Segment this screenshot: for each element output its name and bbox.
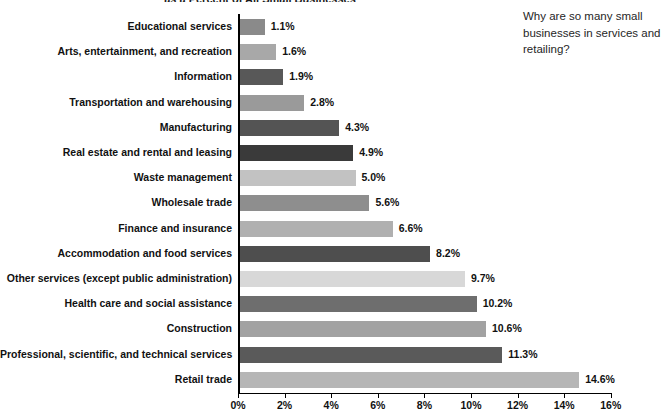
x-axis-tick-label: 4% [308, 399, 354, 411]
category-label: Health care and social assistance [0, 291, 232, 315]
category-label: Professional, scientific, and technical … [0, 342, 232, 366]
chart-bar-row: Professional, scientific, and technical … [0, 342, 620, 367]
x-axis-tick [471, 393, 472, 398]
x-axis-tick-label: 0% [215, 399, 261, 411]
chart-bar-row: Other services (except public administra… [0, 266, 620, 291]
bar [239, 145, 353, 161]
x-axis-tick-label: 10% [448, 399, 494, 411]
category-label: Wholesale trade [0, 190, 232, 214]
chart-bar-row: Information1.9% [0, 64, 620, 89]
bar-value-label: 1.9% [289, 64, 313, 88]
chart-bar-row: Health care and social assistance10.2% [0, 291, 620, 316]
category-label: Educational services [0, 14, 232, 38]
category-label: Real estate and rental and leasing [0, 140, 232, 164]
x-axis-tick-label: 2% [262, 399, 308, 411]
chart-bar-row: Construction10.6% [0, 316, 620, 341]
bar [239, 321, 486, 337]
bar [239, 120, 339, 136]
bar [239, 69, 283, 85]
category-label: Manufacturing [0, 115, 232, 139]
bar [239, 271, 465, 287]
bar-value-label: 14.6% [585, 367, 615, 391]
category-label: Transportation and warehousing [0, 90, 232, 114]
bar-value-label: 5.0% [362, 165, 386, 189]
bar [239, 95, 304, 111]
chart-bar-row: Waste management5.0% [0, 165, 620, 190]
category-label: Waste management [0, 165, 232, 189]
x-axis-tick [285, 393, 286, 398]
x-axis-tick [331, 393, 332, 398]
bar-value-label: 8.2% [436, 241, 460, 265]
chart-bar-row: Arts, entertainment, and recreation1.6% [0, 39, 620, 64]
x-axis-tick [564, 393, 565, 398]
category-label: Arts, entertainment, and recreation [0, 39, 232, 63]
x-axis-tick [424, 393, 425, 398]
category-label: Other services (except public administra… [0, 266, 232, 290]
chart-bar-row: Accommodation and food services8.2% [0, 241, 620, 266]
chart-bar-row: Retail trade14.6% [0, 367, 620, 392]
x-axis-tick [518, 393, 519, 398]
bar [239, 221, 393, 237]
bar [239, 246, 430, 262]
category-label: Retail trade [0, 367, 232, 391]
bar [239, 296, 477, 312]
bar [239, 347, 502, 363]
chart-title: as a Percent of All Small Businesses [0, 0, 520, 2]
chart-bar-row: Finance and insurance6.6% [0, 216, 620, 241]
bar-value-label: 9.7% [471, 266, 495, 290]
category-label: Finance and insurance [0, 216, 232, 240]
bar [239, 195, 369, 211]
x-axis-tick-label: 12% [495, 399, 541, 411]
bar-value-label: 6.6% [399, 216, 423, 240]
x-axis-tick [238, 393, 239, 398]
bar-value-label: 4.9% [359, 140, 383, 164]
bar-value-label: 2.8% [310, 90, 334, 114]
chart-bar-row: Transportation and warehousing2.8% [0, 90, 620, 115]
x-axis-tick-label: 6% [355, 399, 401, 411]
x-axis-tick-label: 8% [401, 399, 447, 411]
bar-value-label: 5.6% [375, 190, 399, 214]
category-label: Information [0, 64, 232, 88]
bar-value-label: 4.3% [345, 115, 369, 139]
bar-value-label: 10.6% [492, 316, 522, 340]
chart-bar-row: Wholesale trade5.6% [0, 190, 620, 215]
x-axis-tick [611, 393, 612, 398]
bar-value-label: 1.1% [271, 14, 295, 38]
chart-bar-row: Educational services1.1% [0, 14, 620, 39]
bar-value-label: 1.6% [282, 39, 306, 63]
chart-bar-row: Manufacturing4.3% [0, 115, 620, 140]
x-axis-tick [378, 393, 379, 398]
bar [239, 170, 356, 186]
x-axis-tick-label: 14% [541, 399, 587, 411]
bar [239, 44, 276, 60]
bar-value-label: 11.3% [508, 342, 537, 366]
x-axis-tick-label: 16% [588, 399, 634, 411]
bar-value-label: 10.2% [483, 291, 513, 315]
bar [239, 372, 579, 388]
category-label: Construction [0, 316, 232, 340]
bar [239, 19, 265, 35]
y-axis-line [238, 14, 240, 394]
chart-bar-row: Real estate and rental and leasing4.9% [0, 140, 620, 165]
bar-chart-plot-area: Educational services1.1%Arts, entertainm… [0, 14, 620, 394]
category-label: Accommodation and food services [0, 241, 232, 265]
